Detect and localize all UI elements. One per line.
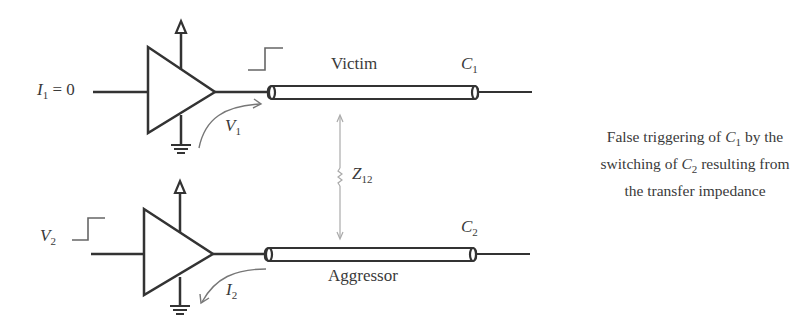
aggressor-buffer — [144, 209, 213, 295]
victim-step-icon — [248, 48, 283, 70]
c2-label: C2 — [461, 217, 478, 238]
victim-ground-icon — [171, 145, 191, 153]
description-line-2: switching of C2 resulting from — [595, 153, 795, 180]
aggressor-line-label: Aggressor — [328, 266, 398, 286]
description-line-3: the transfer impedance — [595, 180, 795, 201]
v2-label: V2 — [40, 226, 56, 247]
aggressor-ground-icon — [170, 306, 190, 314]
coupling-impedance-arrow — [337, 115, 343, 239]
aggressor-transmission-line — [265, 248, 476, 261]
z12-label: Z12 — [352, 164, 372, 185]
victim-input-label: I1 = 0 — [37, 80, 75, 101]
description-text: False triggering of C1 by the switching … — [595, 126, 795, 201]
victim-line-label: Victim — [331, 54, 377, 74]
description-line-1: False triggering of C1 by the — [595, 126, 795, 153]
victim-vcc-arrow-icon — [176, 21, 186, 33]
aggressor-step-icon — [72, 218, 105, 240]
v1-label: V1 — [225, 116, 241, 137]
i2-label: I2 — [226, 280, 237, 301]
victim-transmission-line — [268, 86, 478, 99]
c1-label: C1 — [461, 54, 478, 75]
aggressor-vcc-arrow-icon — [175, 181, 185, 193]
